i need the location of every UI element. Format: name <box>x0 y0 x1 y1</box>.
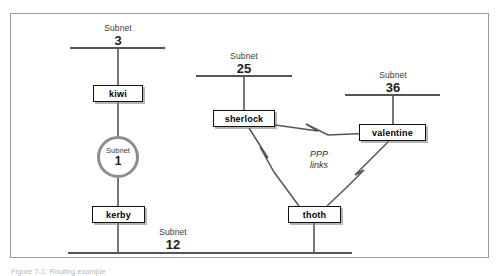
subnet-number: 36 <box>367 81 419 94</box>
host-node-valentine[interactable]: valentine <box>359 124 426 141</box>
host-node-kerby[interactable]: kerby <box>92 206 145 223</box>
subnet-word: Subnet <box>367 71 419 80</box>
subnet-number: 12 <box>147 238 199 251</box>
figure-caption: Figure 7-1: Routing example <box>11 267 106 276</box>
subnet-label-25: Subnet 25 <box>218 52 270 75</box>
subnet-number: 1 <box>115 155 122 167</box>
host-node-thoth[interactable]: thoth <box>288 206 341 223</box>
ppp-link-sherlock-thoth <box>249 128 299 206</box>
subnet-label-12: Subnet 12 <box>147 228 199 251</box>
subnet-word: Subnet <box>218 52 270 61</box>
host-label: thoth <box>303 210 327 220</box>
network-diagram-canvas <box>0 0 502 276</box>
host-label: sherlock <box>225 114 264 124</box>
ppp-label-line-2: links <box>296 160 342 171</box>
subnet-ring-1: Subnet 1 <box>97 136 139 178</box>
figure-container: Subnet 3 Subnet 25 Subnet 36 Subnet 12 S… <box>0 0 502 276</box>
host-node-sherlock[interactable]: sherlock <box>213 110 275 127</box>
host-label: kerby <box>106 210 131 220</box>
ppp-label-line-1: PPP <box>296 149 342 160</box>
subnet-label-3: Subnet 3 <box>92 24 144 47</box>
subnet-word: Subnet <box>92 24 144 33</box>
host-label: valentine <box>372 128 413 138</box>
host-node-kiwi[interactable]: kiwi <box>93 85 143 102</box>
subnet-word: Subnet <box>147 228 199 237</box>
subnet-number: 3 <box>92 34 144 47</box>
ppp-links-annotation: PPP links <box>296 149 342 172</box>
subnet-label-36: Subnet 36 <box>367 71 419 94</box>
host-label: kiwi <box>109 89 127 99</box>
subnet-word: Subnet <box>106 147 130 155</box>
subnet-number: 25 <box>218 62 270 75</box>
